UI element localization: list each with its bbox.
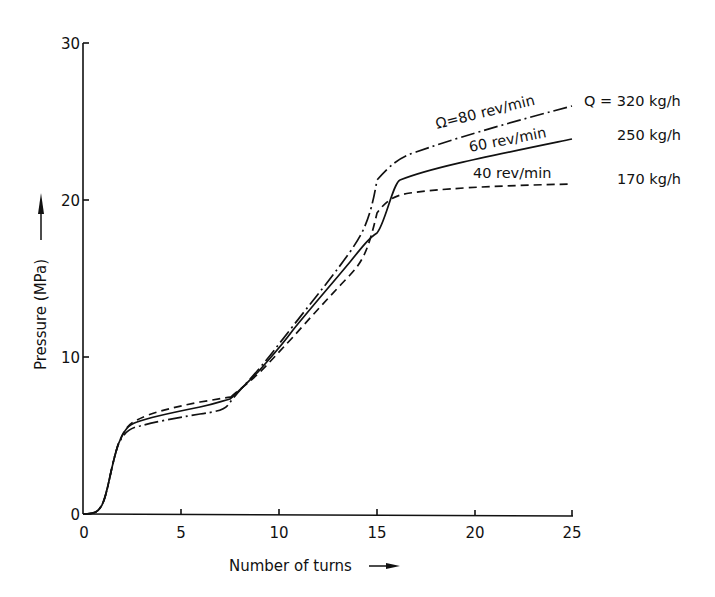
label-80-rpm: Ω=80 rev/min <box>434 92 537 132</box>
x-tick-0: 0 <box>79 524 89 542</box>
label-60-rpm: 60 rev/min <box>468 124 548 155</box>
y-axis-arrow-icon <box>38 193 44 240</box>
curve-60-rpm <box>83 139 572 514</box>
curve-40-rpm <box>83 184 572 514</box>
x-axis-title: Number of turns <box>229 557 352 575</box>
y-tick-0: 0 <box>70 506 80 524</box>
y-axis-title: Pressure (MPa) <box>32 259 50 370</box>
x-axis <box>83 514 573 516</box>
x-tick-labels: 0 5 10 15 20 25 <box>79 524 581 542</box>
x-tick-25: 25 <box>562 524 581 542</box>
y-tick-10: 10 <box>61 349 80 367</box>
label-flow-170: 170 kg/h <box>617 171 681 187</box>
pressure-chart: 30 20 10 0 0 5 10 15 20 25 Number of tur… <box>0 0 715 597</box>
x-tick-15: 15 <box>367 524 386 542</box>
x-axis-arrow-icon <box>369 563 400 569</box>
label-flow-250: 250 kg/h <box>617 127 681 143</box>
flow-labels: Q = 320 kg/h 250 kg/h 170 kg/h <box>584 93 681 187</box>
y-tick-labels: 30 20 10 0 <box>61 35 80 524</box>
y-tick-20: 20 <box>61 192 80 210</box>
x-tick-5: 5 <box>176 524 186 542</box>
label-flow-320: Q = 320 kg/h <box>584 93 681 109</box>
series-labels: Ω=80 rev/min 60 rev/min 40 rev/min <box>434 92 552 181</box>
y-tick-30: 30 <box>61 35 80 53</box>
x-tick-20: 20 <box>465 524 484 542</box>
x-tick-10: 10 <box>269 524 288 542</box>
label-40-rpm: 40 rev/min <box>473 165 551 181</box>
